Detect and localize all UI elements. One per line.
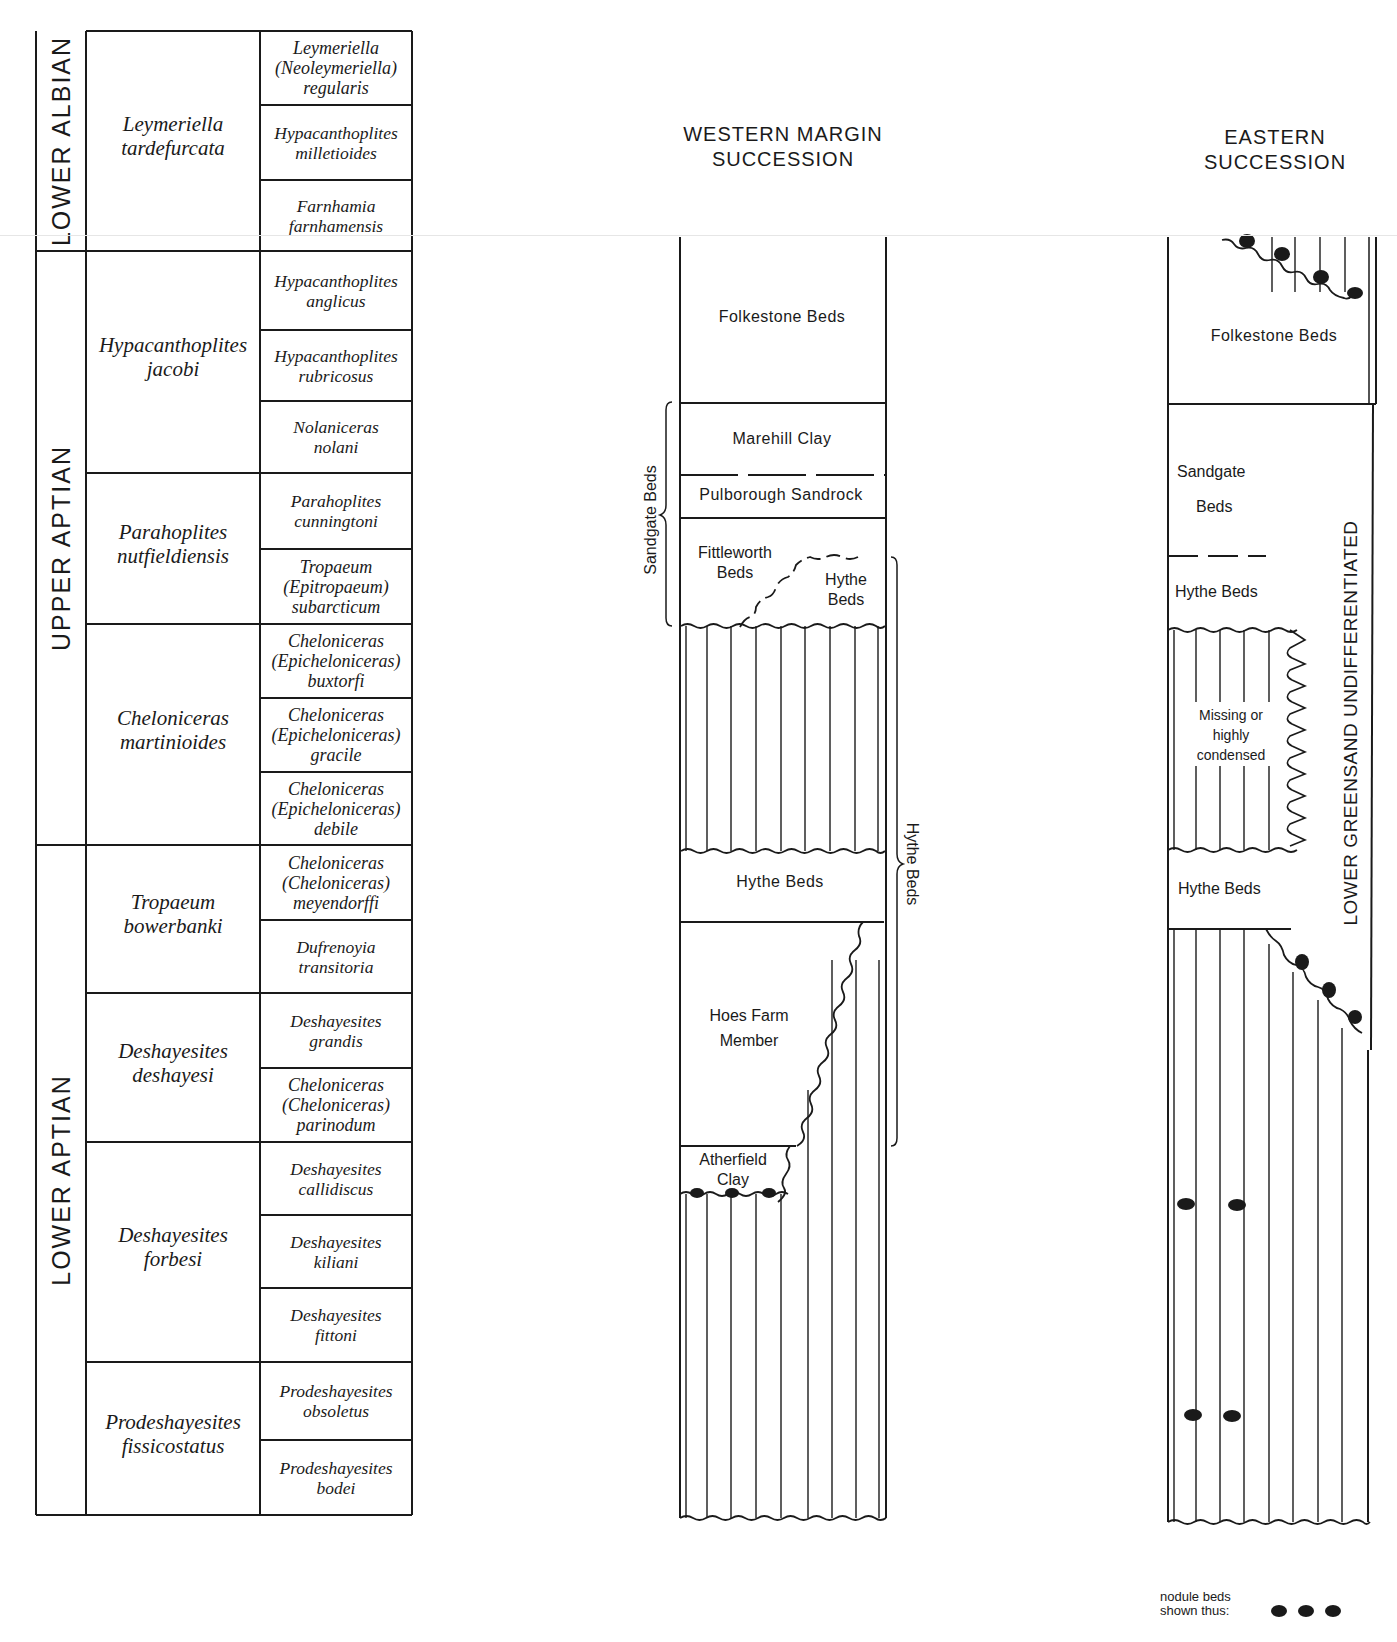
zone-name: forbesi xyxy=(144,1247,203,1271)
eastern-right-edge-lower xyxy=(1371,404,1373,1050)
subzone-name: meyendorffi xyxy=(293,893,379,913)
zone-name: Hypacanthoplites xyxy=(98,333,247,357)
stage-label: UPPER APTIAN xyxy=(47,445,75,651)
sandgate-beds-brace xyxy=(660,402,672,626)
eastern-column: EASTERN SUCCESSION Folkestone Beds Sandg… xyxy=(1168,126,1376,1524)
zone-name: Deshayesites xyxy=(117,1039,228,1063)
eastern-sandgate-label-1: Sandgate xyxy=(1177,463,1246,480)
subzone-name: kiliani xyxy=(314,1252,359,1272)
subzone-name: Tropaeum xyxy=(300,557,372,577)
subzone-name: anglicus xyxy=(306,291,365,311)
subzone-name: (Epicheloniceras) xyxy=(272,725,401,746)
subzone-name: (Cheloniceras) xyxy=(282,873,390,894)
zone-name: bowerbanki xyxy=(123,914,222,938)
subzone-name: (Epicheloniceras) xyxy=(272,651,401,672)
zone-name: Leymeriella xyxy=(122,112,223,136)
western-lower-hatching xyxy=(686,960,879,1518)
subzone-name: obsoletus xyxy=(303,1401,369,1421)
western-hythe-upper-label-2: Beds xyxy=(828,591,864,608)
eastern-missing-label-2: highly xyxy=(1213,727,1250,743)
nodule-icon xyxy=(1228,1199,1246,1211)
legend-text-2: shown thus: xyxy=(1160,1603,1229,1618)
stage-label: LOWER APTIAN xyxy=(47,1074,75,1286)
subzone-name: Hypacanthoplites xyxy=(273,123,398,143)
western-folkestone-label: Folkestone Beds xyxy=(719,308,846,325)
subzone-name: Cheloniceras xyxy=(288,853,384,873)
eastern-unconformity-wavy-base xyxy=(1168,848,1297,852)
subzone-name: Cheloniceras xyxy=(288,1075,384,1095)
eastern-hythe-upper-label: Hythe Beds xyxy=(1175,583,1258,600)
zone-name: deshayesi xyxy=(132,1063,214,1087)
nodule-dots-icon xyxy=(1271,1605,1341,1617)
western-atherfield-label-1: Atherfield xyxy=(699,1151,767,1168)
subzone-name: (Cheloniceras) xyxy=(282,1095,390,1116)
western-fittleworth-label-2: Beds xyxy=(717,564,753,581)
eastern-lower-nodule-bed xyxy=(1295,954,1362,1024)
subzone-name: grandis xyxy=(309,1031,363,1051)
western-pulborough-label: Pulborough Sandrock xyxy=(699,486,863,503)
hythe-beds-bracket-label: Hythe Beds xyxy=(904,823,921,906)
subzone-name: gracile xyxy=(311,745,362,765)
subzone-name: buxtorfi xyxy=(308,671,365,691)
eastern-lower-hatching xyxy=(1174,929,1368,1522)
subzone-name: (Neoleymeriella) xyxy=(275,58,397,79)
subzone-name: Deshayesites xyxy=(289,1305,382,1325)
western-base-wavy xyxy=(680,1516,886,1520)
subzone-name: Dufrenoyia xyxy=(295,937,375,957)
subzone-name: fittoni xyxy=(315,1325,357,1345)
nodule-icon xyxy=(1348,1010,1362,1024)
scan-artifact-rule xyxy=(0,235,1397,236)
eastern-title-line2: SUCCESSION xyxy=(1204,151,1346,173)
subzone-name: (Epicheloniceras) xyxy=(272,799,401,820)
hoes-farm-diachronous-boundary xyxy=(797,922,863,1146)
zone-name: Tropaeum xyxy=(131,890,215,914)
eastern-title-line1: EASTERN xyxy=(1224,126,1325,148)
western-hoes-farm-label-2: Member xyxy=(720,1032,779,1049)
nodule-icon xyxy=(690,1188,704,1198)
condensed-zigzag-margin xyxy=(1287,630,1305,846)
hythe-beds-brace xyxy=(891,557,903,1146)
nodule-icon xyxy=(1177,1198,1195,1210)
nodule-icon xyxy=(1223,1410,1241,1422)
lower-greensand-undifferentiated-label: LOWER GREENSAND UNDIFFERENTIATED xyxy=(1340,520,1361,925)
zone-name: fissicostatus xyxy=(122,1434,225,1458)
eastern-top-hatching xyxy=(1272,237,1345,292)
legend-text-1: nodule beds xyxy=(1160,1589,1231,1604)
atherfield-nodule-bed xyxy=(690,1188,776,1198)
subzone-name: Deshayesites xyxy=(289,1232,382,1252)
western-hythe-mid-label: Hythe Beds xyxy=(736,873,824,890)
subzone-name: parinodum xyxy=(294,1115,375,1135)
subzone-name: Hypacanthoplites xyxy=(273,271,398,291)
western-hythe-upper-label-1: Hythe xyxy=(825,571,867,588)
zone-name: Cheloniceras xyxy=(117,706,229,730)
nodule-icon xyxy=(1184,1409,1202,1421)
western-margin-column: WESTERN MARGIN SUCCESSION Folkestone Bed… xyxy=(642,123,921,1520)
zone-name: nutfieldiensis xyxy=(117,544,229,568)
subzone-name: nolani xyxy=(314,437,359,457)
western-atherfield-label-2: Clay xyxy=(717,1171,749,1188)
legend: nodule beds shown thus: xyxy=(1160,1589,1341,1618)
nodule-icon xyxy=(1295,954,1309,970)
subzone-name: subarcticum xyxy=(292,597,380,617)
zone-name: martinioides xyxy=(120,730,226,754)
nodule-icon xyxy=(1322,982,1336,998)
eastern-lower-unconformity xyxy=(1266,929,1362,1033)
nodule-icon xyxy=(762,1188,776,1198)
eastern-missing-label-1: Missing or xyxy=(1199,707,1263,723)
subzone-name: transitoria xyxy=(299,957,374,977)
western-marehill-label: Marehill Clay xyxy=(733,430,832,447)
eastern-folkestone-label: Folkestone Beds xyxy=(1211,327,1338,344)
eastern-top-unconformity xyxy=(1222,240,1352,299)
subzone-name: farnhamensis xyxy=(289,216,384,236)
western-title-line2: SUCCESSION xyxy=(712,148,854,170)
subzone-name: (Epitropaeum) xyxy=(283,577,388,598)
zone-name: tardefurcata xyxy=(121,136,224,160)
zone-name: Prodeshayesites xyxy=(104,1410,241,1434)
stratigraphy-figure: LOWER ALBIANUPPER APTIANLOWER APTIANLeym… xyxy=(0,0,1397,1642)
western-title-line1: WESTERN MARGIN xyxy=(683,123,883,145)
subzone-name: Prodeshayesites xyxy=(278,1381,392,1401)
subzone-name: callidiscus xyxy=(299,1179,374,1199)
subzone-name: rubricosus xyxy=(299,366,374,386)
subzone-name: Farnhamia xyxy=(296,196,376,216)
subzone-name: bodei xyxy=(317,1478,356,1498)
